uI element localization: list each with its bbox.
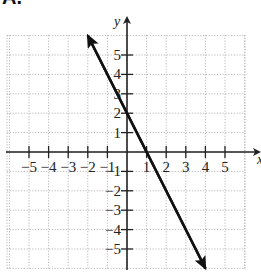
- x-tick-label: −3: [60, 159, 76, 175]
- y-tick-label: −4: [105, 222, 121, 238]
- x-tick-label: 3: [182, 159, 190, 175]
- y-tick-label: −2: [105, 183, 121, 199]
- y-tick-label: 2: [114, 105, 122, 121]
- y-tick-label: 5: [114, 47, 122, 63]
- y-tick-label: −3: [105, 202, 121, 218]
- x-tick-label: −2: [80, 159, 96, 175]
- y-tick-label: −5: [105, 241, 121, 257]
- x-tick-label: 4: [202, 159, 210, 175]
- coordinate-plane: xy−5−4−3−2−112345−5−4−3−2−112345: [0, 0, 261, 272]
- graph-svg: xy−5−4−3−2−112345−5−4−3−2−112345: [0, 0, 261, 272]
- axes: [6, 18, 259, 270]
- x-tick-label: 5: [221, 159, 229, 175]
- y-axis-label: y: [112, 14, 121, 29]
- y-tick-label: −1: [105, 163, 121, 179]
- y-tick-label: 4: [114, 66, 122, 82]
- y-tick-label: 1: [114, 125, 122, 141]
- x-tick-label: 2: [162, 159, 170, 175]
- x-axis-label: x: [256, 152, 261, 167]
- x-tick-label: 1: [143, 159, 151, 175]
- x-tick-label: −4: [41, 159, 57, 175]
- x-tick-label: −5: [21, 159, 37, 175]
